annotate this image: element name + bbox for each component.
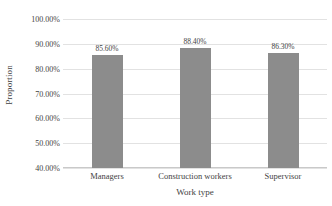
bar[interactable] bbox=[268, 53, 299, 168]
plot-area: 85.60%88.40%86.30% bbox=[63, 19, 327, 168]
y-axis-tick-label: 90.00% bbox=[35, 39, 60, 48]
bar-slot: 86.30% bbox=[239, 19, 327, 168]
y-axis-title-text: Proportion bbox=[4, 65, 14, 105]
bars-layer: 85.60%88.40%86.30% bbox=[63, 19, 327, 168]
x-axis-tick-label: Supervisor bbox=[239, 171, 327, 185]
x-axis-title: Work type bbox=[63, 187, 327, 197]
y-axis-tick-labels: 100.00%90.00%80.00%70.00%60.00%50.00%40.… bbox=[18, 19, 62, 168]
bar-value-label: 85.60% bbox=[95, 44, 118, 53]
y-axis-tick-label: 70.00% bbox=[35, 89, 60, 98]
y-axis-title: Proportion bbox=[0, 0, 18, 170]
y-axis-tick-label: 40.00% bbox=[35, 164, 60, 173]
bar-value-label: 88.40% bbox=[183, 37, 206, 46]
bar[interactable] bbox=[92, 55, 123, 168]
gridline bbox=[63, 168, 327, 169]
y-axis-tick-label: 80.00% bbox=[35, 64, 60, 73]
bar-slot: 85.60% bbox=[63, 19, 151, 168]
bar-slot: 88.40% bbox=[151, 19, 239, 168]
bar[interactable] bbox=[180, 48, 211, 168]
y-axis-tick-label: 50.00% bbox=[35, 139, 60, 148]
x-axis-tick-labels: ManagersConstruction workersSupervisor bbox=[63, 171, 327, 185]
x-axis-tick-label: Managers bbox=[63, 171, 151, 185]
bar-value-label: 86.30% bbox=[271, 42, 294, 51]
bar-chart: Proportion 100.00%90.00%80.00%70.00%60.0… bbox=[0, 0, 332, 206]
y-axis-tick-label: 100.00% bbox=[31, 15, 60, 24]
x-axis-tick-label: Construction workers bbox=[151, 171, 239, 185]
y-axis-tick-label: 60.00% bbox=[35, 114, 60, 123]
